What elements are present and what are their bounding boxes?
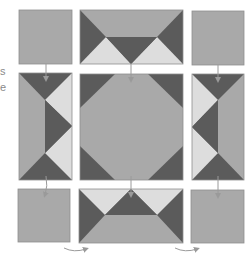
block-center [80,74,183,180]
arrow-bottom-right-curve-icon [175,248,197,251]
block-bottom-right [191,190,244,243]
block-bottom-middle [79,189,183,243]
quilt-block-diagram [0,0,250,264]
block-top-middle [80,10,183,64]
block-middle-right [192,74,244,180]
block-top-right [192,11,244,65]
arrow-bottom-left-curve-icon [64,248,86,251]
block-middle-left [19,73,72,180]
block-top-left [19,10,72,64]
block-bottom-left [18,189,70,242]
